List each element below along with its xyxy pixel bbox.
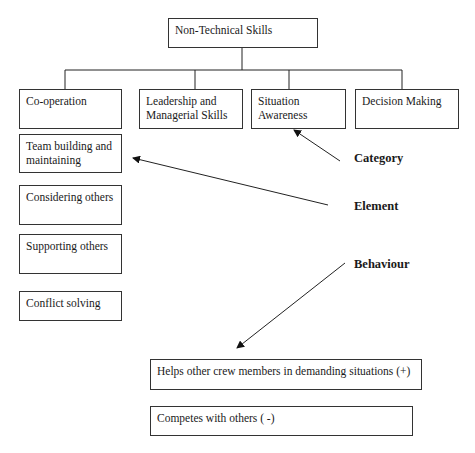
- element-node-team-building: Team building and maintaining: [19, 134, 122, 173]
- category-label: Decision Making: [362, 95, 442, 107]
- category-label: Co-operation: [26, 95, 87, 107]
- behaviour-node-competes: Competes with others ( -): [150, 406, 413, 436]
- element-arrow: [133, 158, 328, 205]
- element-label: Supporting others: [26, 240, 108, 252]
- element-node-conflict-solving: Conflict solving: [19, 291, 122, 321]
- element-node-considering-others: Considering others: [19, 185, 122, 225]
- category-node-situation-awareness: Situation Awareness: [251, 89, 346, 129]
- category-node-leadership: Leadership and Managerial Skills: [139, 89, 243, 129]
- legend-element: Element: [354, 199, 398, 214]
- element-node-supporting-others: Supporting others: [19, 234, 122, 274]
- behaviour-node-helps-others: Helps other crew members in demanding si…: [150, 359, 422, 390]
- behaviour-arrow: [237, 263, 345, 348]
- legend-behaviour: Behaviour: [354, 257, 410, 272]
- category-label: Situation Awareness: [258, 95, 307, 121]
- category-label: Leadership and Managerial Skills: [146, 95, 227, 121]
- behaviour-label: Helps other crew members in demanding si…: [157, 365, 410, 377]
- element-label: Team building and maintaining: [26, 140, 112, 166]
- category-arrow: [294, 130, 340, 161]
- root-label: Non-Technical Skills: [175, 24, 272, 36]
- element-label: Conflict solving: [26, 297, 100, 309]
- root-node-non-technical-skills: Non-Technical Skills: [168, 18, 318, 48]
- behaviour-label: Competes with others ( -): [157, 412, 275, 424]
- legend-category: Category: [354, 151, 403, 166]
- element-label: Considering others: [26, 191, 113, 203]
- category-node-decision-making: Decision Making: [355, 89, 459, 129]
- category-node-co-operation: Co-operation: [19, 89, 122, 129]
